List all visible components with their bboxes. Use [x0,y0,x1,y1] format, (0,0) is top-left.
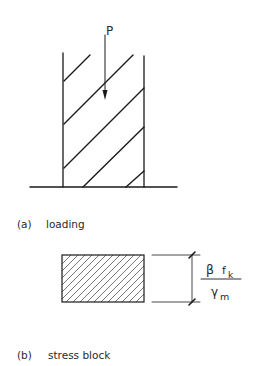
numerator-f: f [222,264,227,277]
figure-a-loading: P (a) loading [17,24,177,230]
stress-fraction: β f k γ m [201,262,241,302]
caption-a-marker: (a) [17,218,32,230]
wall-hatching [64,55,144,187]
caption-a-text: loading [46,218,85,230]
figure-b-stress-block: β f k γ m (b) stress block [17,252,241,361]
dimension-lines [152,252,200,305]
caption-b-text: stress block [48,349,111,361]
load-arrow-icon [103,35,108,100]
denominator-subscript-m: m [220,291,229,302]
load-label: P [106,24,113,38]
block-hatching [24,255,183,302]
denominator-gamma: γ [211,285,218,299]
diagram-canvas: P (a) loading [0,0,253,366]
numerator-subscript-k: k [228,270,234,280]
caption-b-marker: (b) [17,349,32,361]
numerator-beta: β [206,262,214,277]
